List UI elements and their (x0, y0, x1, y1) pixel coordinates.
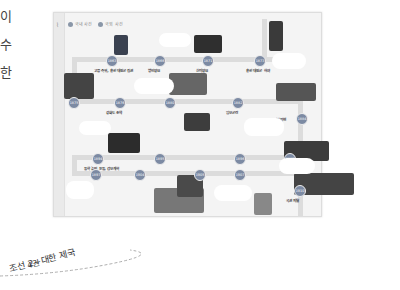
speech-bubble (279, 158, 315, 174)
event-caption: 고종 즉위, 흥선 대원군 집권 (94, 68, 133, 73)
year-node-1880: 1880 (164, 97, 176, 109)
event-caption: 병인양요 (148, 68, 160, 73)
photo-document (194, 35, 222, 53)
speech-bubble (159, 33, 191, 47)
legend-label: 국외 사건 (105, 21, 122, 27)
spine-mark: ⌇ (56, 21, 59, 28)
illustration-gojong (114, 35, 128, 55)
legend-label: 국내 사건 (75, 21, 92, 27)
event-caption: 흥선 대원군 하야 (246, 68, 270, 73)
year-node-1876: 1876 (114, 97, 126, 109)
legend-item-foreign: 국외 사건 (98, 21, 122, 27)
year-node-1871: 1871 (202, 55, 214, 67)
year-node-1873: 1873 (254, 55, 266, 67)
illustration-statue (269, 21, 283, 51)
illustration-palace (276, 83, 316, 101)
photo-treaty (254, 193, 272, 215)
event-caption: 국권 피탈 (286, 198, 299, 203)
year-node-1894: 1894 (92, 153, 104, 165)
event-caption: 임오군란 (226, 110, 238, 115)
legend-dot-icon (68, 22, 73, 27)
page-spine: ⌇ (54, 13, 65, 216)
speech-bubble (66, 181, 94, 199)
speech-bubble (79, 121, 111, 135)
timeline-road (72, 155, 302, 160)
speech-bubble (214, 185, 252, 201)
year-node-1863: 1863 (106, 55, 118, 67)
timeline-road (72, 99, 302, 104)
year-node-1884: 1884 (296, 113, 308, 125)
timeline-page: ⌇ 국내 사건 국외 사건 1863 고종 즉위, 흥선 대원군 집권 1866… (53, 12, 322, 217)
legend-item-domestic: 국내 사건 (68, 21, 92, 27)
year-node-1905: 1905 (194, 169, 206, 181)
speech-bubble (272, 53, 306, 69)
event-caption: 강화도 조약 (106, 110, 122, 115)
illustration-soldiers (169, 73, 207, 95)
speech-bubble (244, 118, 284, 136)
year-node-1875: 1875 (68, 97, 80, 109)
timeline-road (72, 57, 276, 62)
speech-bubble (134, 78, 174, 94)
year-node-1910: 1910 (294, 185, 306, 197)
photo-group (108, 133, 140, 153)
legend: 국내 사건 국외 사건 (68, 21, 123, 27)
illustration-officials (64, 73, 94, 99)
year-node-1897: 1897 (90, 169, 102, 181)
event-caption: 동학 농민 운동, 갑오개혁 (84, 166, 119, 171)
legend-dot-icon (98, 22, 103, 27)
left-text-fragment-3: 한 (0, 62, 12, 81)
year-node-1882: 1882 (232, 97, 244, 109)
photo-ship (184, 113, 210, 131)
year-node-1896: 1896 (234, 153, 246, 165)
event-caption: 신미양요 (196, 68, 208, 73)
year-node-1907: 1907 (234, 169, 246, 181)
year-node-1904: 1904 (134, 169, 146, 181)
year-node-1895: 1895 (154, 153, 166, 165)
left-text-fragment-1: 이 (0, 6, 12, 25)
left-text-fragment-2: 수 (0, 34, 12, 53)
year-node-1866: 1866 (154, 55, 166, 67)
